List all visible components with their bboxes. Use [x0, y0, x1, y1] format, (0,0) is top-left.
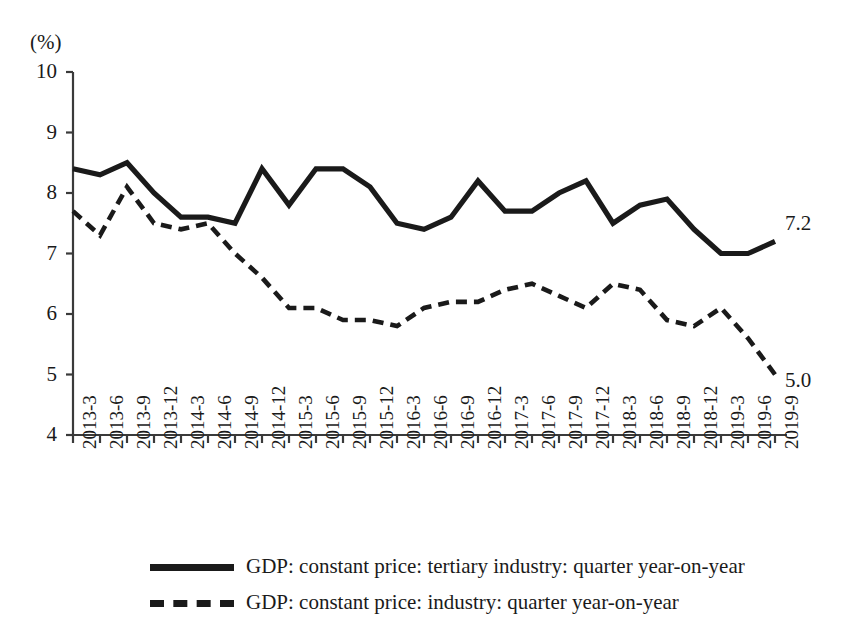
- chart-page: (%) 10987654 2013-32013-62013-92013-1220…: [0, 0, 842, 638]
- x-axis-tick-label: 2013-9: [134, 395, 153, 449]
- chart-legend: GDP: constant price: tertiary industry: …: [150, 548, 810, 620]
- x-axis-tick-label: 2014-6: [215, 395, 234, 449]
- x-axis-tick-label: 2016-12: [485, 386, 504, 449]
- end-value-label-tertiary: 7.2: [785, 213, 811, 234]
- x-axis-tick-label: 2018-9: [674, 395, 693, 449]
- y-axis-tick-label: 9: [23, 122, 57, 143]
- chart-plot-area: [0, 0, 842, 638]
- x-axis-tick-label: 2015-6: [323, 395, 342, 449]
- x-axis-tick-label: 2013-12: [161, 386, 180, 449]
- legend-item-tertiary: GDP: constant price: tertiary industry: …: [150, 548, 810, 584]
- x-axis-tick-label: 2019-9: [782, 395, 801, 449]
- x-axis-tick-label: 2015-12: [377, 386, 396, 449]
- x-axis-tick-label: 2016-9: [458, 395, 477, 449]
- y-axis-tick-label: 10: [23, 61, 57, 82]
- x-axis-tick-label: 2013-3: [80, 395, 99, 449]
- x-axis-tick-label: 2018-3: [620, 395, 639, 449]
- x-axis-tick-label: 2019-3: [728, 395, 747, 449]
- x-axis-tick-label: 2017-3: [512, 395, 531, 449]
- legend-label-industry: GDP: constant price: industry: quarter y…: [246, 592, 679, 613]
- legend-swatch-solid-line-icon: [150, 564, 234, 571]
- x-axis-tick-label: 2018-6: [647, 395, 666, 449]
- legend-swatch-dashed-line-icon: [150, 600, 234, 607]
- chart-svg: [0, 0, 842, 638]
- x-axis-tick-label: 2015-3: [296, 395, 315, 449]
- x-axis-tick-label: 2014-12: [269, 386, 288, 449]
- series-line-tertiary: [73, 163, 775, 254]
- y-axis-tick-label: 8: [23, 182, 57, 203]
- x-axis-tick-label: 2014-9: [242, 395, 261, 449]
- y-axis-tick-label: 4: [23, 424, 57, 445]
- x-axis-tick-label: 2019-6: [755, 395, 774, 449]
- y-axis-tick-label: 5: [23, 364, 57, 385]
- x-axis-tick-label: 2013-6: [107, 395, 126, 449]
- x-axis-tick-label: 2015-9: [350, 395, 369, 449]
- legend-label-tertiary: GDP: constant price: tertiary industry: …: [246, 556, 745, 577]
- end-value-label-industry: 5.0: [785, 370, 811, 391]
- x-axis-tick-label: 2016-3: [404, 395, 423, 449]
- x-axis-tick-label: 2017-9: [566, 395, 585, 449]
- legend-item-industry: GDP: constant price: industry: quarter y…: [150, 584, 810, 620]
- x-axis-tick-label: 2017-12: [593, 386, 612, 449]
- x-axis-tick-label: 2014-3: [188, 395, 207, 449]
- x-axis-tick-label: 2016-6: [431, 395, 450, 449]
- y-axis-tick-label: 7: [23, 243, 57, 264]
- x-axis-tick-label: 2018-12: [701, 386, 720, 449]
- x-axis-tick-label: 2017-6: [539, 395, 558, 449]
- y-axis-tick-label: 6: [23, 303, 57, 324]
